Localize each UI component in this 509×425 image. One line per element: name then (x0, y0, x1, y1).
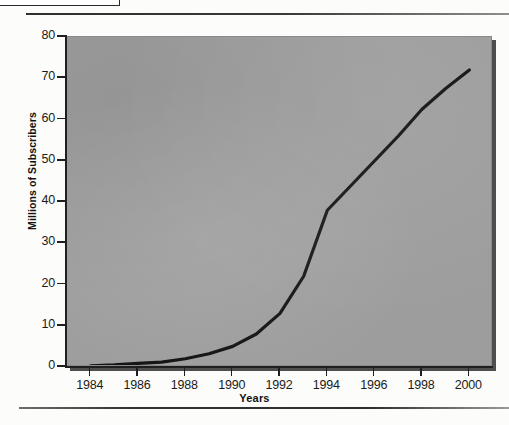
y-tick-mark (57, 159, 66, 161)
y-tick-label: 20 (15, 276, 55, 290)
x-axis-title: Years (0, 392, 509, 404)
y-tick-label: 10 (15, 317, 55, 331)
x-tick-mark (184, 367, 186, 376)
x-tick-mark (326, 367, 328, 376)
x-tick-mark (468, 367, 470, 376)
y-tick-label: 70 (15, 69, 55, 83)
x-tick-mark (420, 367, 422, 376)
line-chart-figure: 01020304050607080 1984198619881990199219… (0, 0, 509, 425)
x-tick-mark (136, 367, 138, 376)
y-tick-mark (57, 241, 66, 243)
y-tick-mark (57, 76, 66, 78)
plot-area (66, 36, 492, 366)
y-tick-mark (57, 283, 66, 285)
y-tick-mark (57, 118, 66, 120)
y-axis-title: Millions of Subscribers (26, 91, 38, 251)
y-tick-label-wrap: 10 (10, 317, 55, 331)
y-tick-label-wrap: 0 (10, 358, 55, 372)
y-tick-label-wrap: 70 (10, 69, 55, 83)
y-tick-label: 0 (15, 358, 55, 372)
y-tick-label-wrap: 80 (10, 28, 55, 42)
page-background: 01020304050607080 1984198619881990199219… (0, 0, 509, 425)
x-tick-mark (373, 367, 375, 376)
x-tick-label: 2000 (440, 378, 496, 392)
x-tick-mark (278, 367, 280, 376)
x-tick-mark (89, 367, 91, 376)
y-tick-mark (57, 200, 66, 202)
y-tick-mark (57, 365, 66, 367)
data-line-series (67, 37, 492, 366)
y-tick-label: 80 (15, 28, 55, 42)
x-tick-mark (231, 367, 233, 376)
y-tick-label-wrap: 20 (10, 276, 55, 290)
y-tick-mark (57, 324, 66, 326)
series-polyline (91, 70, 470, 366)
y-tick-mark (57, 35, 66, 37)
